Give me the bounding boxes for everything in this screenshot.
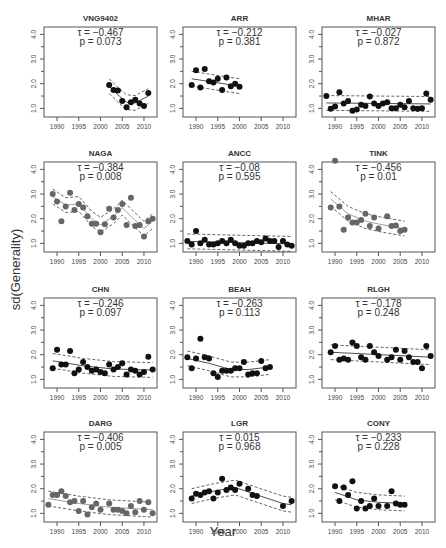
data-point [102,221,108,227]
svg-text:3.0: 3.0 [169,459,176,468]
data-point [202,237,208,243]
panel-cony: CONYτ = −0.233p = 0.2281.02.03.04.019901… [308,419,435,535]
svg-text:1.0: 1.0 [308,103,315,112]
data-point [384,213,390,219]
svg-text:2005: 2005 [393,258,408,265]
data-point [428,353,434,359]
data-point [376,503,382,509]
data-point [119,201,125,207]
data-point [271,238,277,244]
panel-title: CHN [92,285,110,294]
data-point [354,505,360,511]
data-point [336,498,342,504]
svg-text:3.0: 3.0 [308,325,315,334]
svg-text:2005: 2005 [393,123,408,130]
data-point [389,354,395,360]
data-point [258,358,264,364]
data-point [184,354,190,360]
data-point [206,355,212,361]
svg-text:3.0: 3.0 [169,54,176,63]
data-point [106,206,112,212]
data-point [63,362,69,368]
svg-text:2010: 2010 [137,394,152,401]
data-point [328,205,334,211]
svg-text:1995: 1995 [350,258,365,265]
data-point [219,87,225,93]
data-point [206,488,212,494]
svg-text:2010: 2010 [137,258,152,265]
svg-text:1.0: 1.0 [308,508,315,517]
data-point [397,357,403,363]
svg-text:1.0: 1.0 [30,374,37,383]
svg-text:1995: 1995 [72,394,87,401]
panel-naga: NAGAτ = −0.384p = 0.0081.02.03.04.019901… [30,149,157,265]
data-point [141,369,147,375]
data-point [58,488,64,494]
panel-title: ANCC [228,149,251,158]
p-annotation: p = 0.228 [358,441,400,452]
data-point [367,94,373,100]
panel-ancc: ANCCτ = −0.08p = 0.5951.02.03.04.0199019… [169,149,296,265]
svg-text:2.0: 2.0 [30,484,37,493]
data-point [328,349,334,355]
p-annotation: p = 0.968 [219,441,261,452]
data-point [193,67,199,73]
data-point [336,203,342,209]
data-point [193,355,199,361]
data-point [80,205,86,211]
p-annotation: p = 0.005 [80,441,122,452]
data-point [50,191,56,197]
data-point [84,512,90,518]
data-point [215,76,221,82]
data-point [106,501,112,507]
data-point [345,214,351,220]
data-point [50,365,56,371]
svg-text:4.0: 4.0 [30,29,37,38]
data-point [124,510,130,516]
svg-text:1995: 1995 [350,123,365,130]
svg-text:1990: 1990 [328,394,343,401]
svg-text:2010: 2010 [276,123,291,130]
svg-text:2.0: 2.0 [169,214,176,223]
svg-text:2005: 2005 [254,123,269,130]
data-point [215,374,221,380]
svg-text:4.0: 4.0 [308,29,315,38]
data-point [371,496,377,502]
svg-text:1.0: 1.0 [169,103,176,112]
svg-text:2.0: 2.0 [308,79,315,88]
data-point [362,211,368,217]
svg-text:3.0: 3.0 [308,54,315,63]
data-point [349,478,355,484]
panel-title: MHAR [367,14,391,23]
data-point [362,103,368,109]
svg-text:2010: 2010 [276,258,291,265]
data-point [45,502,51,508]
panel-darg: DARGτ = −0.406p = 0.0051.02.03.04.019901… [30,419,157,535]
data-point [402,104,408,110]
data-point [402,502,408,508]
panel-vng9402: VNG9402τ = −0.467p = 0.0731.02.03.04.019… [30,14,157,130]
svg-text:4.0: 4.0 [169,29,176,38]
svg-text:1.0: 1.0 [169,238,176,247]
data-point [128,503,134,509]
data-point [354,107,360,113]
svg-text:3.0: 3.0 [30,459,37,468]
data-point [345,492,351,498]
chart-figure: VNG9402τ = −0.467p = 0.0731.02.03.04.019… [0,0,446,548]
data-point [98,229,104,235]
panel-title: NAGA [89,149,113,158]
data-point [376,226,382,232]
data-point [393,347,399,353]
panel-title: DARG [89,419,113,428]
svg-text:3.0: 3.0 [30,325,37,334]
data-point [367,223,373,229]
data-point [150,510,156,516]
data-point [54,347,60,353]
data-point [428,97,434,103]
data-point [150,216,156,222]
data-point [336,89,342,95]
data-point [332,343,338,349]
data-point [393,223,399,229]
data-point [193,228,199,234]
data-point [128,195,134,201]
